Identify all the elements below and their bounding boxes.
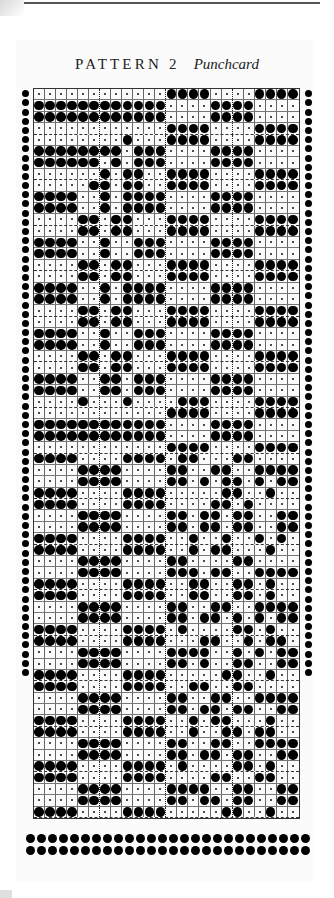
grid-cell	[155, 135, 166, 145]
unpunched-dot	[248, 321, 250, 323]
grid-row	[34, 454, 299, 465]
sprocket-hole	[22, 375, 29, 382]
punched-hole	[100, 705, 110, 715]
grid-cell	[188, 533, 199, 543]
grid-cell	[188, 772, 199, 782]
border-hole	[81, 834, 90, 843]
punched-hole	[222, 329, 232, 339]
grid-cell	[244, 112, 255, 122]
unpunched-dot	[137, 572, 139, 574]
grid-cell	[266, 283, 277, 293]
unpunched-dot	[71, 526, 73, 528]
grid-cell	[255, 510, 266, 520]
grid-cell	[211, 522, 222, 532]
grid-cell	[78, 533, 89, 543]
unpunched-dot	[148, 218, 150, 220]
unpunched-dot	[60, 708, 62, 710]
grid-cell	[199, 146, 210, 156]
grid-cell	[199, 772, 210, 782]
punched-hole	[145, 761, 155, 771]
punched-hole	[111, 693, 121, 703]
grid-cell	[45, 180, 56, 190]
grid-cell	[100, 248, 111, 258]
grid-cell	[288, 351, 299, 361]
grid-cell	[133, 214, 144, 224]
unpunched-dot	[292, 298, 294, 300]
grid-cell	[188, 499, 199, 509]
punched-hole	[233, 477, 243, 487]
grid-cell	[266, 112, 277, 122]
grid-cell	[45, 795, 56, 805]
unpunched-dot	[270, 788, 272, 790]
grid-cell	[155, 123, 166, 133]
grid-cell	[211, 476, 222, 486]
grid-cell	[288, 442, 299, 452]
unpunched-dot	[60, 617, 62, 619]
grid-cell	[199, 328, 210, 338]
unpunched-dot	[281, 105, 283, 107]
grid-cell	[288, 89, 299, 99]
grid-cell	[89, 715, 100, 725]
grid-cell	[56, 419, 67, 429]
grid-cell	[122, 636, 133, 646]
grid-cell	[78, 510, 89, 520]
unpunched-dot	[170, 811, 172, 813]
sprocket-hole	[305, 660, 312, 667]
unpunched-dot	[159, 606, 161, 608]
grid-cell	[288, 100, 299, 110]
grid-cell	[177, 454, 188, 464]
unpunched-dot	[71, 742, 73, 744]
grid-cell	[222, 419, 233, 429]
sprocket-hole	[305, 458, 312, 465]
unpunched-dot	[270, 287, 272, 289]
grid-cell	[67, 636, 78, 646]
punched-hole	[45, 112, 55, 122]
grid-cell	[56, 647, 67, 657]
unpunched-dot	[126, 572, 128, 574]
unpunched-dot	[192, 617, 194, 619]
grid-cell	[166, 260, 177, 270]
unpunched-dot	[181, 777, 183, 779]
unpunched-dot	[82, 674, 84, 676]
grid-cell	[67, 305, 78, 315]
unpunched-dot	[248, 355, 250, 357]
grid-cell	[211, 226, 222, 236]
unpunched-dot	[226, 560, 228, 562]
grid-cell	[100, 157, 111, 167]
grid-cell	[266, 533, 277, 543]
grid-cell	[211, 408, 222, 418]
unpunched-dot	[192, 754, 194, 756]
grid-cell	[166, 146, 177, 156]
unpunched-dot	[237, 503, 239, 505]
punched-hole	[156, 670, 166, 680]
grid-row	[34, 488, 299, 499]
grid-cell	[89, 807, 100, 817]
punched-hole	[255, 215, 265, 225]
unpunched-dot	[237, 697, 239, 699]
grid-cell	[244, 613, 255, 623]
punched-hole	[178, 215, 188, 225]
grid-cell	[188, 362, 199, 372]
grid-cell	[166, 681, 177, 691]
grid-cell	[199, 351, 210, 361]
unpunched-dot	[104, 537, 106, 539]
unpunched-dot	[203, 458, 205, 460]
unpunched-dot	[203, 150, 205, 152]
punched-hole	[211, 705, 221, 715]
unpunched-dot	[270, 537, 272, 539]
unpunched-dot	[115, 173, 117, 175]
grid-cell	[67, 374, 78, 384]
grid-cell	[199, 123, 210, 133]
grid-cell	[111, 192, 122, 202]
unpunched-dot	[215, 480, 217, 482]
unpunched-dot	[93, 640, 95, 642]
punched-hole	[211, 750, 221, 760]
grid-cell	[222, 613, 233, 623]
grid-cell	[111, 351, 122, 361]
grid-cell	[288, 807, 299, 817]
punched-hole	[45, 146, 55, 156]
unpunched-dot	[226, 526, 228, 528]
grid-cell	[255, 374, 266, 384]
grid-cell	[288, 727, 299, 737]
punched-hole	[45, 591, 55, 601]
